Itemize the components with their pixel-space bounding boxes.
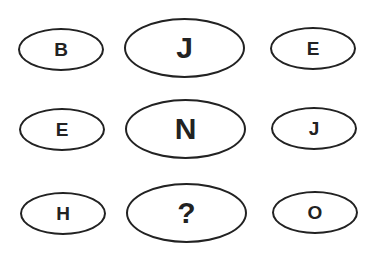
- ellipse-row3-left: H: [20, 192, 106, 235]
- letter: J: [176, 31, 193, 65]
- ellipse-row3-right: O: [272, 191, 358, 234]
- letter: H: [56, 203, 70, 225]
- letter: J: [309, 118, 320, 140]
- letter: E: [56, 119, 69, 141]
- ellipse-row1-center: J: [124, 18, 245, 78]
- ellipse-row2-left: E: [19, 108, 105, 151]
- ellipse-row2-center: N: [125, 99, 246, 159]
- ellipse-row3-center: ?: [126, 183, 247, 243]
- letter: B: [54, 39, 68, 61]
- letter: O: [308, 202, 323, 224]
- letter: E: [307, 38, 320, 60]
- ellipse-row1-right: E: [270, 27, 356, 70]
- question-mark: ?: [177, 196, 195, 230]
- letter: N: [175, 112, 197, 146]
- ellipse-row2-right: J: [271, 107, 357, 150]
- ellipse-row1-left: B: [18, 28, 104, 71]
